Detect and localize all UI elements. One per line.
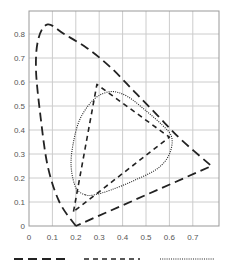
series-long-dash [36,24,212,226]
y-tick-label: 0.5 [14,102,26,111]
x-tick-label: 0.1 [47,233,59,242]
series-dotted [71,92,172,196]
y-tick-label: 0 [21,222,26,231]
y-tick-label: 0.8 [14,30,26,39]
x-tick-label: 0.6 [164,233,176,242]
x-tick-label: 0.4 [117,233,129,242]
x-tick-label: 0.5 [140,233,152,242]
y-tick-label: 0.1 [14,198,26,207]
x-tick-label: 0 [27,233,32,242]
y-tick-label: 0.4 [14,126,26,135]
y-tick-label: 0.7 [14,54,26,63]
x-axis-ticks: 00.10.20.30.40.50.60.7 [27,233,199,242]
grid [29,11,219,226]
series-short-dash [74,84,170,211]
y-tick-label: 0.3 [14,150,26,159]
x-tick-label: 0.3 [94,233,106,242]
x-tick-label: 0.7 [187,233,199,242]
chart: 00.10.20.30.40.50.60.70.8 00.10.20.30.40… [0,0,228,264]
y-axis-ticks: 00.10.20.30.40.50.60.70.8 [14,30,26,231]
plot-frame [29,11,219,226]
y-tick-label: 0.6 [14,78,26,87]
x-tick-label: 0.2 [70,233,82,242]
series-layer [36,24,212,226]
y-tick-label: 0.2 [14,174,26,183]
